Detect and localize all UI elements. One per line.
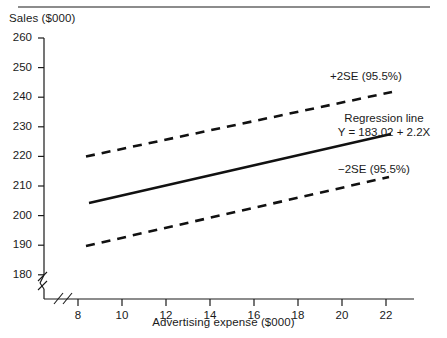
y-axis-ticks bbox=[38, 38, 44, 275]
x-axis-title: Advertising expense ($000) bbox=[0, 316, 447, 328]
y-axis-break-slash-1 bbox=[38, 272, 47, 281]
regression-line-annotation: Regression line bbox=[325, 112, 443, 126]
y-tick-label-220: 220 bbox=[2, 150, 32, 162]
y-tick-label-260: 260 bbox=[2, 32, 32, 44]
x-axis-ticks bbox=[78, 299, 386, 306]
regression-equation-annotation: Y = 183.02 + 2.2X bbox=[325, 126, 443, 140]
y-tick-label-230: 230 bbox=[2, 121, 32, 133]
y-tick-label-250: 250 bbox=[2, 62, 32, 74]
y-tick-label-180: 180 bbox=[2, 269, 32, 281]
y-tick-label-190: 190 bbox=[2, 239, 32, 251]
lower-confidence-band-line bbox=[86, 177, 389, 246]
lower-band-annotation: −2SE (95.5%) bbox=[338, 163, 410, 177]
y-axis-break-slash-2 bbox=[38, 281, 47, 290]
regression-chart-figure: Sales ($000) bbox=[0, 0, 447, 338]
y-tick-label-200: 200 bbox=[2, 210, 32, 222]
y-tick-label-240: 240 bbox=[2, 91, 32, 103]
y-tick-label-210: 210 bbox=[2, 180, 32, 192]
upper-band-annotation: +2SE (95.5%) bbox=[330, 70, 402, 84]
